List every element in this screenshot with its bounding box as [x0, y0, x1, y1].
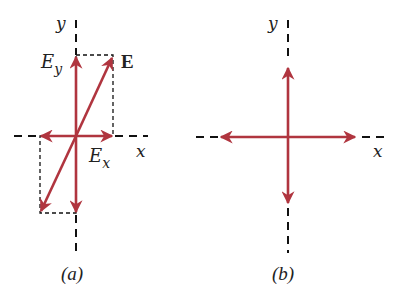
vector-e-label: E — [121, 51, 134, 72]
ex-label: Ex — [88, 145, 110, 171]
caption-b: (b) — [272, 263, 294, 285]
x-axis-label-a: x — [136, 141, 146, 161]
caption-a: (a) — [61, 263, 83, 285]
vector-e — [76, 58, 112, 136]
vector-e-reverse — [41, 136, 76, 211]
y-axis-label-a: y — [55, 13, 66, 33]
ey-label: Ey — [40, 51, 63, 77]
panel-a: y x E Ey Ex — [14, 13, 148, 255]
y-axis-label-b: y — [267, 13, 278, 33]
panel-b: y x — [196, 13, 390, 253]
x-axis-label-b: x — [373, 141, 383, 161]
figure: y x E Ey Ex y x — [0, 0, 397, 296]
